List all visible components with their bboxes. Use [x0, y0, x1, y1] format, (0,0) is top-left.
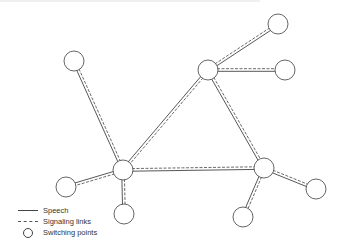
switching-point-node: [114, 204, 134, 224]
signaling-link: [207, 23, 277, 69]
switching-point-node: [268, 14, 288, 34]
signaling-link: [75, 60, 124, 169]
legend-item-speech: Speech: [17, 205, 97, 216]
switching-points-layer: [56, 14, 326, 227]
legend: Speech Signaling links Switching points: [17, 205, 97, 238]
signaling-link: [209, 69, 265, 167]
legend-label: Speech: [43, 205, 68, 216]
switching-point-node: [113, 160, 133, 180]
speech-link: [207, 71, 263, 169]
switching-point-node: [56, 177, 76, 197]
signaling-link: [123, 167, 264, 169]
switching-point-node: [233, 207, 253, 227]
circle-icon: [17, 227, 39, 238]
legend-label: Switching points: [43, 227, 97, 238]
legend-label: Signaling links: [43, 216, 91, 227]
switching-point-node: [254, 158, 274, 178]
switching-point-node: [306, 179, 326, 199]
signaling-link: [124, 71, 209, 171]
legend-item-switching: Switching points: [17, 227, 97, 238]
speech-link: [209, 25, 279, 71]
switching-point-node: [64, 51, 84, 71]
switching-point-node: [275, 60, 295, 80]
solid-line-icon: [17, 205, 39, 216]
dashed-line-icon: [17, 216, 39, 227]
speech-link: [122, 69, 207, 169]
speech-link: [123, 169, 264, 171]
switching-point-node: [198, 60, 218, 80]
legend-item-signaling: Signaling links: [17, 216, 97, 227]
speech-link: [73, 62, 122, 171]
links-layer: [66, 23, 317, 218]
